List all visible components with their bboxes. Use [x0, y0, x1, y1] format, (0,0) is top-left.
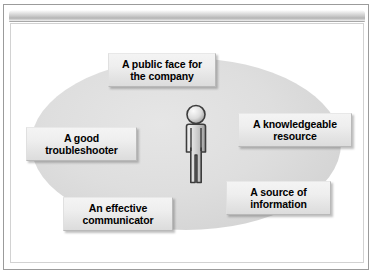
- callout-text: An effective communicator: [82, 202, 153, 227]
- diagram-canvas: A public face for the company A knowledg…: [4, 5, 370, 271]
- callout-line-2: communicator: [82, 214, 153, 226]
- callout-line-2: resource: [273, 130, 317, 142]
- callout-text: A good troubleshooter: [45, 132, 118, 157]
- callout-line-1: An effective: [89, 202, 147, 214]
- callout-line-1: A source of: [250, 186, 306, 198]
- callout-line-2: the company: [130, 70, 194, 82]
- callout-good-troubleshooter[interactable]: A good troubleshooter: [26, 127, 137, 161]
- callout-text: A public face for the company: [122, 58, 202, 83]
- callout-line-2: information: [250, 198, 307, 210]
- person-icon: [173, 104, 219, 186]
- slide-frame: A public face for the company A knowledg…: [3, 4, 369, 270]
- callout-effective-communicator[interactable]: An effective communicator: [63, 197, 173, 231]
- callout-text: A source of information: [250, 186, 307, 211]
- callout-public-face[interactable]: A public face for the company: [108, 53, 216, 87]
- callout-line-1: A knowledgeable: [253, 118, 337, 130]
- callout-line-2: troubleshooter: [45, 144, 118, 156]
- callout-text: A knowledgeable resource: [253, 118, 337, 143]
- callout-knowledgeable-resource[interactable]: A knowledgeable resource: [238, 113, 352, 147]
- callout-line-1: A good: [64, 132, 99, 144]
- callout-source-of-information[interactable]: A source of information: [226, 181, 331, 215]
- callout-line-1: A public face for: [122, 58, 202, 70]
